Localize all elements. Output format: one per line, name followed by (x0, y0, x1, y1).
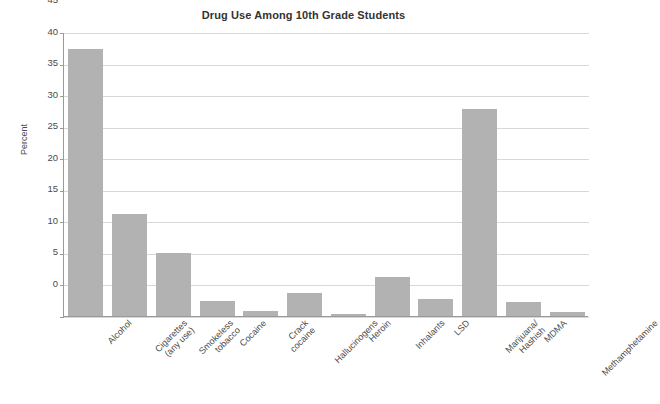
bars-layer (64, 32, 589, 316)
bar (243, 311, 278, 316)
y-tick-label: 40 (18, 27, 58, 37)
bar (462, 109, 497, 316)
y-tick-label: 10 (18, 216, 58, 226)
bar (200, 301, 235, 316)
x-tick-label: Alcohol (106, 318, 134, 346)
y-tick-label: 45 (18, 0, 58, 5)
x-tick-label: LSD (452, 318, 471, 337)
bar (112, 214, 147, 316)
y-tick-label: 35 (18, 58, 58, 68)
y-axis-tick-labels: 051015202530354045 (13, 0, 58, 284)
x-tick-label: Cocaine (238, 318, 268, 348)
bar (287, 293, 322, 316)
y-tick-label: 0 (18, 279, 58, 289)
x-tick-label: Crack cocaine (281, 318, 317, 354)
x-axis-tick-labels: AlcoholCigarettes (any use)Smokeless tob… (63, 318, 588, 404)
y-tick-label: 20 (18, 153, 58, 163)
chart-title: Drug Use Among 10th Grade Students (0, 9, 607, 21)
plot-area (63, 33, 588, 317)
bar (418, 299, 453, 316)
bar (331, 314, 366, 316)
x-tick-label: Smokeless tobacco (197, 318, 242, 363)
x-tick-label: Cigarettes (any use) (153, 318, 196, 361)
y-tick-label: 5 (18, 247, 58, 257)
bar (156, 253, 191, 316)
x-tick-label: Methamphetamine (600, 318, 660, 378)
bar (506, 302, 541, 316)
y-tick-label: 30 (18, 90, 58, 100)
x-tick-label: Marijuana/ Hashish (503, 318, 547, 362)
x-tick-label: MDMA (542, 318, 569, 345)
bar (68, 49, 103, 316)
bar (375, 277, 410, 316)
y-tick-label: 25 (18, 121, 58, 131)
y-tick-label: 15 (18, 184, 58, 194)
bar (550, 312, 585, 316)
x-tick-label: Inhalants (414, 318, 447, 351)
